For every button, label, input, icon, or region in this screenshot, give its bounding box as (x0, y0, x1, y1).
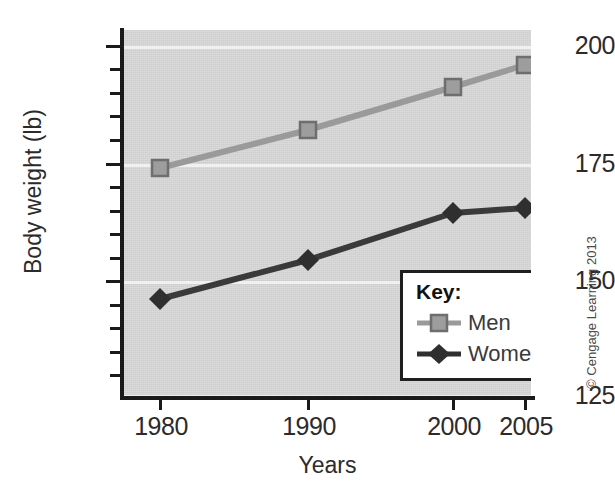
x-tick-1990 (307, 396, 310, 410)
y-tick-190 (110, 92, 124, 95)
men-marker-1990 (300, 122, 316, 138)
legend-label-men: Men (468, 310, 511, 336)
plot-area: Key: Men Women (124, 30, 531, 398)
men-legend-swatch-icon (416, 312, 462, 334)
women-marker-2000 (442, 202, 464, 224)
y-tick-145 (110, 304, 124, 307)
women-marker-1990 (297, 249, 319, 271)
series-men (152, 57, 531, 176)
copyright-credit: © Cengage Learning 2013 (584, 218, 599, 408)
x-tick-label-2000: 2000 (427, 412, 481, 441)
y-axis-line (120, 28, 124, 400)
y-tick-160 (110, 233, 124, 236)
y-tick-180 (110, 139, 124, 142)
y-tick-140 (110, 327, 124, 330)
legend-label-women: Women (468, 341, 531, 367)
y-tick-155 (110, 257, 124, 260)
chart-legend: Key: Men Women (400, 270, 531, 381)
x-tick-label-2005: 2005 (499, 412, 553, 441)
y-tick-195 (110, 68, 124, 71)
y-tick-130 (110, 374, 124, 377)
x-axis-line (120, 396, 535, 400)
x-tick-label-1980: 1980 (134, 412, 188, 441)
men-marker-2005 (517, 57, 531, 73)
men-marker-2000 (445, 79, 461, 95)
y-tick-150 (106, 280, 124, 283)
y-axis-title: Body weight (lb) (20, 77, 47, 307)
y-tick-135 (110, 351, 124, 354)
y-tick-label-150: 150 (549, 266, 615, 295)
x-tick-2000 (452, 396, 455, 410)
women-legend-swatch-icon (416, 343, 462, 365)
legend-entry-men: Men (416, 307, 531, 338)
x-axis-title: Years (124, 452, 531, 479)
men-line (160, 65, 525, 168)
y-tick-label-175: 175 (549, 149, 615, 178)
x-tick-1980 (159, 396, 162, 410)
y-tick-170 (110, 186, 124, 189)
chart-figure: Key: Men Women (0, 0, 615, 493)
y-tick-label-125: 125 (549, 381, 615, 410)
x-tick-2005 (524, 396, 527, 410)
y-tick-175 (106, 163, 124, 166)
legend-entry-women: Women (416, 338, 531, 369)
x-tick-label-1990: 1990 (282, 412, 336, 441)
y-tick-label-200: 200 (549, 31, 615, 60)
women-marker-1980 (149, 288, 171, 310)
y-tick-165 (110, 210, 124, 213)
y-tick-200 (106, 45, 124, 48)
women-marker-2005 (514, 197, 531, 219)
legend-title: Key: (416, 280, 531, 304)
men-marker-1980 (152, 160, 168, 176)
y-tick-185 (110, 115, 124, 118)
